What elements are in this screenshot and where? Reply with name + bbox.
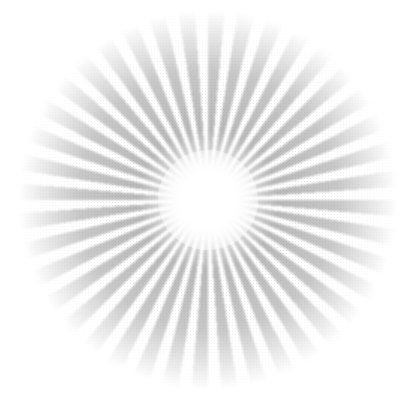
starburst-image [0,0,417,400]
center-glow [158,150,258,250]
